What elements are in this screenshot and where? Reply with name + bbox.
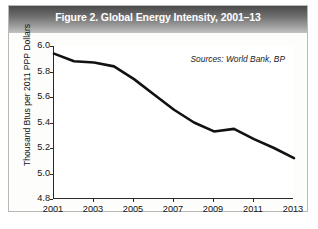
- x-tick-mark: [213, 199, 214, 202]
- plot-area: Sources: World Bank, BP: [53, 46, 293, 199]
- y-tick-label: 5.8: [26, 66, 50, 76]
- y-tick-label: 6.0: [26, 40, 50, 50]
- figure-title: Figure 2. Global Energy Intensity, 2001–…: [9, 11, 307, 23]
- x-tick-label: 2013: [276, 204, 310, 214]
- figure-title-banner: Figure 2. Global Energy Intensity, 2001–…: [9, 6, 307, 33]
- x-tick-label: 2001: [36, 204, 70, 214]
- y-tick-label: 5.4: [26, 117, 50, 127]
- x-tick-mark: [133, 199, 134, 202]
- x-tick-label: 2009: [196, 204, 230, 214]
- y-tick-mark: [50, 199, 53, 200]
- y-tick-label: 5.6: [26, 91, 50, 101]
- line-series: [54, 46, 294, 199]
- y-tick-label: 5.0: [26, 168, 50, 178]
- x-tick-mark: [253, 199, 254, 202]
- x-tick-label: 2011: [236, 204, 270, 214]
- figure-card: Figure 2. Global Energy Intensity, 2001–…: [8, 5, 308, 212]
- y-tick-label: 5.2: [26, 142, 50, 152]
- x-tick-mark: [93, 199, 94, 202]
- x-tick-mark: [173, 199, 174, 202]
- chart-container: Thousand Btus per 2011 PPP Dollars 4.85.…: [9, 33, 309, 213]
- y-tick-label: 4.8: [26, 193, 50, 203]
- x-tick-label: 2007: [156, 204, 190, 214]
- x-tick-label: 2003: [76, 204, 110, 214]
- x-tick-label: 2005: [116, 204, 150, 214]
